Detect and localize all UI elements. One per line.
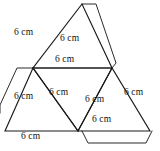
label-center-interior: 6 cm	[49, 87, 68, 97]
label-bottom-left-edge: 6 cm	[21, 131, 40, 141]
label-right-interior: 6 cm	[85, 94, 104, 104]
net-diagram	[0, 0, 160, 151]
label-top-left-edge: 6 cm	[14, 27, 33, 37]
label-top-interior: 6 cm	[60, 33, 79, 43]
label-right-outer-edge: 6 cm	[124, 87, 143, 97]
label-left-interior: 6 cm	[14, 91, 33, 101]
label-middle-top-edge: 6 cm	[55, 54, 74, 64]
geometry-figure: 6 cm 6 cm 6 cm 6 cm 6 cm 6 cm 6 cm 6 cm …	[0, 0, 160, 151]
label-bottom-right-edge: 6 cm	[92, 114, 111, 124]
bottom-right-flap	[82, 131, 152, 143]
flap-group	[0, 4, 152, 143]
